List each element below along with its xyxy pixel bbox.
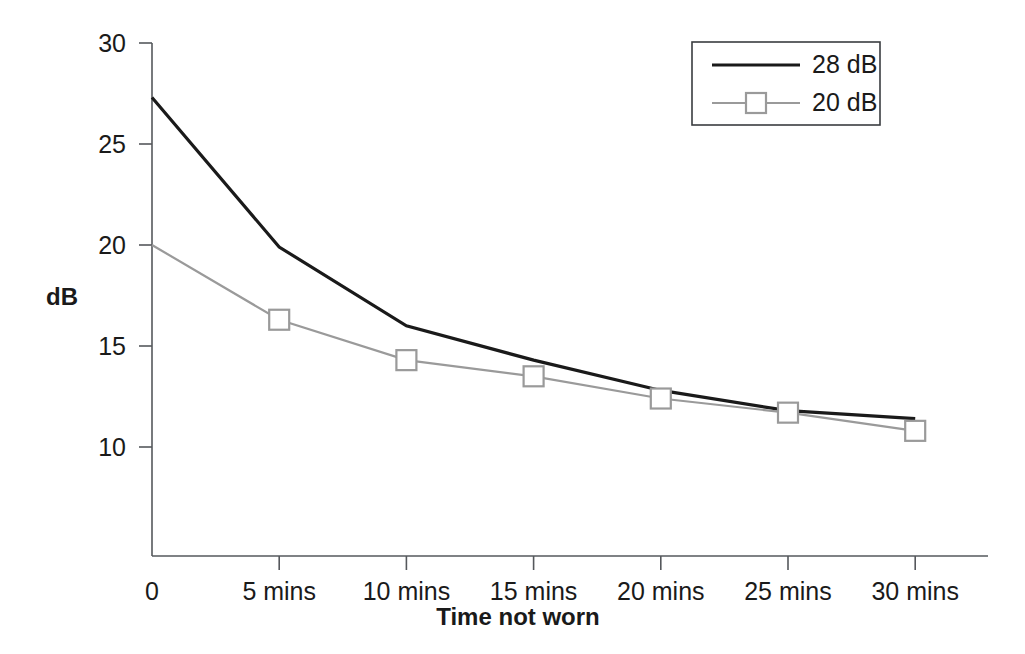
x-tick-label: 5 mins [242, 577, 316, 605]
y-axis: 3025201510 dB [46, 29, 152, 556]
y-tick-label: 25 [98, 130, 126, 158]
y-axis-ticks: 3025201510 [98, 29, 152, 461]
x-tick-label: 10 mins [363, 577, 451, 605]
data-point-marker [905, 421, 925, 441]
line-chart: 3025201510 dB 05 mins10 mins15 mins20 mi… [0, 0, 1025, 654]
x-tick-label: 30 mins [871, 577, 959, 605]
data-point-marker [651, 389, 671, 409]
chart-container: 3025201510 dB 05 mins10 mins15 mins20 mi… [0, 0, 1025, 654]
legend-label: 20 dB [812, 88, 877, 116]
x-tick-label: 15 mins [490, 577, 578, 605]
series-line [152, 245, 915, 431]
y-tick-label: 30 [98, 29, 126, 57]
data-series-layer [152, 98, 925, 441]
y-tick-label: 15 [98, 332, 126, 360]
data-point-marker [396, 350, 416, 370]
data-point-marker [778, 403, 798, 423]
data-point-marker [269, 310, 289, 330]
x-axis-title: Time not worn [436, 603, 600, 630]
y-tick-label: 10 [98, 433, 126, 461]
x-tick-label: 20 mins [617, 577, 705, 605]
x-tick-label: 0 [145, 577, 159, 605]
legend-label: 28 dB [812, 50, 877, 78]
x-axis: 05 mins10 mins15 mins20 mins25 mins30 mi… [145, 556, 988, 630]
data-point-marker [524, 366, 544, 386]
y-axis-title: dB [46, 283, 78, 310]
legend: 28 dB20 dB [692, 42, 880, 125]
x-axis-ticks: 05 mins10 mins15 mins20 mins25 mins30 mi… [145, 556, 959, 605]
y-tick-label: 20 [98, 231, 126, 259]
legend-marker-swatch [746, 93, 766, 113]
x-tick-label: 25 mins [744, 577, 832, 605]
